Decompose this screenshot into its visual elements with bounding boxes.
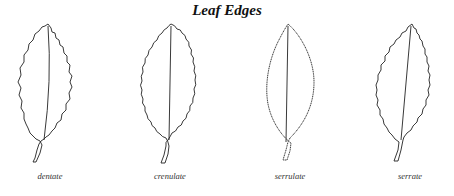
label-dentate: dentate [10,171,90,181]
label-serrate: serrate [370,171,450,181]
serrate-leaf [376,24,430,161]
serrulate-leaf [267,24,314,160]
dentate-leaf [18,24,72,162]
leaf-diagram [0,0,454,196]
label-serrulate: serrulate [250,171,330,181]
crenulate-leaf [141,24,196,163]
label-crenulate: crenulate [130,171,210,181]
